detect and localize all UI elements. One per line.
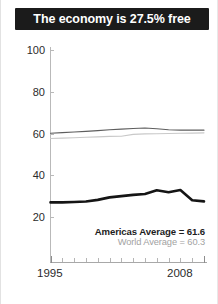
chart-series-layer — [1, 0, 218, 304]
legend-item-world: World Average = 60.3 — [93, 237, 205, 248]
legend-item-americas: Americas Average = 61.6 — [93, 226, 205, 237]
chart-card: The economy is 27.5% free 10080604020 19… — [0, 0, 218, 304]
series-line-americas — [51, 128, 205, 133]
chart-legend: Americas Average = 61.6 World Average = … — [93, 226, 205, 248]
series-line-world — [51, 133, 205, 139]
series-line-country — [51, 190, 205, 202]
